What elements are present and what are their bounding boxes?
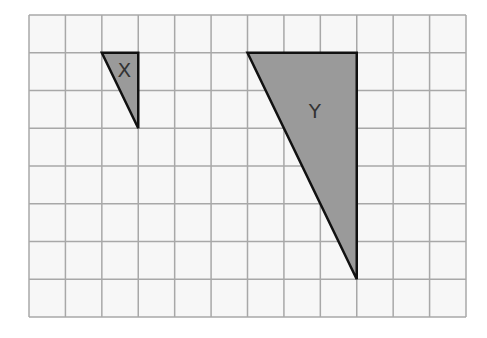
triangle-x-label: X xyxy=(118,58,132,82)
grid-diagram: X Y xyxy=(0,0,487,338)
triangle-y-label: Y xyxy=(308,99,322,123)
